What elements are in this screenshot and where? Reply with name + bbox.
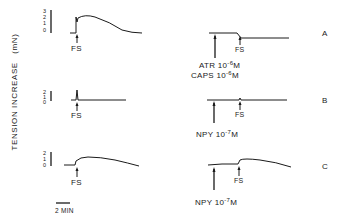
trace-b-right [207, 98, 287, 100]
trace-c-left [64, 157, 139, 166]
drug-label-atr: ATR 10-6M [199, 62, 240, 70]
fs-label-b-right: FS [235, 111, 245, 119]
fs-label-a-left: FS [71, 45, 82, 53]
drug-label-npy-b: NPY 10-7M [196, 131, 238, 139]
fs-label-a-right: FS [235, 46, 245, 54]
trace-a-left [70, 16, 142, 33]
scale-tick: 0 [43, 163, 46, 169]
panel-label-a: A [322, 29, 327, 38]
tension-recording-figure: TENSION INCREASE (mN) [0, 0, 339, 224]
traces-svg [0, 0, 339, 224]
drug-label-npy-c: NPY 10-7M [195, 199, 237, 207]
trace-a-right [209, 33, 289, 38]
panel-label-c: C [322, 162, 328, 171]
scale-tick: 0 [43, 28, 46, 34]
fs-label-c-right: FS [234, 177, 244, 185]
scale-tick: 1 [43, 21, 46, 27]
scale-tick: 0 [43, 100, 46, 106]
fs-label-c-left: FS [71, 179, 82, 187]
time-scale-label: 2 MIN [55, 207, 74, 215]
trace-c-right [208, 159, 291, 167]
trace-b-left [71, 90, 126, 100]
fs-label-b-left: FS [71, 112, 82, 120]
panel-label-b: B [322, 96, 327, 105]
drug-label-caps: CAPS 10-6M [191, 72, 239, 80]
